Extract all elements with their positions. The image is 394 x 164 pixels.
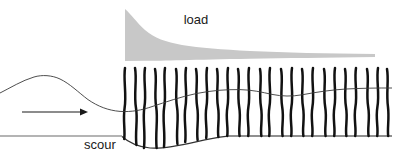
stem xyxy=(345,69,347,136)
stem xyxy=(206,68,208,138)
load-profile-group xyxy=(125,9,375,61)
bed-group xyxy=(0,136,392,148)
scour-label: scour xyxy=(84,137,116,152)
load-shaded-area xyxy=(125,9,375,61)
scour-hole-curve xyxy=(122,136,226,148)
stem xyxy=(164,68,166,147)
stem xyxy=(269,68,271,136)
diagram-canvas: load scour xyxy=(0,0,394,164)
stem xyxy=(324,69,326,136)
stem xyxy=(176,69,178,144)
stem xyxy=(387,69,388,136)
stem xyxy=(135,68,137,145)
stem xyxy=(144,68,146,148)
stem xyxy=(377,68,379,136)
stem xyxy=(367,69,369,136)
stem xyxy=(291,68,293,136)
stem xyxy=(217,69,219,137)
stem xyxy=(185,68,187,142)
flow-arrow-icon xyxy=(22,109,88,116)
stem xyxy=(227,68,229,136)
stem xyxy=(248,68,250,136)
stem xyxy=(281,69,283,136)
stem xyxy=(334,68,336,136)
flow-arrow-head xyxy=(80,109,88,116)
stem xyxy=(124,68,125,139)
vegetated-channel-scour-diagram: load scour xyxy=(0,0,394,164)
stem xyxy=(260,69,262,136)
stem xyxy=(312,68,314,136)
stem xyxy=(155,69,157,148)
load-label: load xyxy=(184,12,209,27)
stem xyxy=(238,69,240,136)
stem xyxy=(196,69,198,140)
stem xyxy=(302,69,304,136)
stem xyxy=(355,68,357,136)
